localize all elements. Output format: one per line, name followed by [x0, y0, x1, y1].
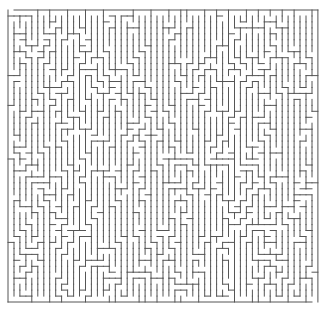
maze-walls: [8, 10, 318, 302]
maze-grid: [0, 0, 322, 310]
maze-container: [0, 0, 322, 310]
